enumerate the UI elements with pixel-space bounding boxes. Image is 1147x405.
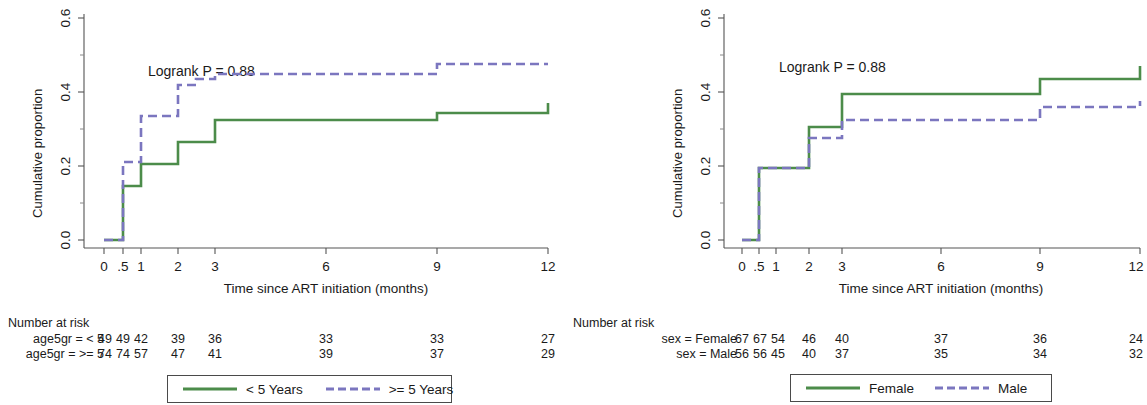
logrank-annotation-right: Logrank P = 0.88 [779, 59, 886, 75]
risk-value: 49 [114, 332, 132, 346]
risk-value: 42 [132, 332, 150, 346]
legend-label-male: Male [998, 381, 1027, 396]
y-tick-label-3: 0.6 [58, 9, 73, 28]
risk-title-right: Number at risk [573, 316, 654, 330]
x-tick-label-6: 9 [433, 259, 441, 274]
legend-item-female: Female [805, 381, 914, 396]
x-tick-label-2: 1 [137, 259, 145, 274]
risk-value: 56 [733, 347, 751, 361]
risk-value: 35 [932, 347, 950, 361]
km-curve-male [742, 101, 1140, 240]
risk-value: 37 [833, 347, 851, 361]
y-minor-ticks [720, 55, 724, 203]
x-tick-label-5: 6 [322, 259, 330, 274]
legend-item-under5: < 5 Years [182, 382, 303, 397]
x-ticks [742, 248, 1140, 254]
risk-row-label-0: age5gr = < 5 [0, 332, 104, 346]
logrank-annotation-left: Logrank P = 0.88 [148, 63, 255, 79]
risk-value: 49 [96, 332, 114, 346]
y-tick-label-2: 0.4 [58, 82, 73, 101]
x-tick-label-7: 12 [540, 259, 555, 274]
panel-left-age-group: Cumulative proportion 0.0 0.2 0.4 0.6 [0, 0, 573, 405]
x-ticks [104, 248, 548, 254]
risk-title-left: Number at risk [8, 316, 89, 330]
risk-value: 74 [114, 347, 132, 361]
risk-value: 40 [833, 332, 851, 346]
legend-item-over5: >= 5 Years [325, 382, 454, 397]
legend-label-under5: < 5 Years [246, 382, 303, 397]
risk-value: 37 [428, 347, 446, 361]
risk-value: 36 [206, 332, 224, 346]
risk-value: 47 [169, 347, 187, 361]
legend-swatch-solid [805, 382, 861, 394]
x-tick-label-4: 3 [838, 259, 846, 274]
risk-value: 67 [751, 332, 769, 346]
risk-value: 54 [769, 332, 787, 346]
x-tick-label-3: 2 [805, 259, 813, 274]
x-tick-label-7: 12 [1128, 259, 1143, 274]
x-tick-label-6: 9 [1036, 259, 1044, 274]
x-tick-label-0: 0 [738, 259, 746, 274]
risk-value: 32 [1127, 347, 1145, 361]
x-axis-label-left: Time since ART initiation (months) [224, 281, 429, 296]
x-tick-label-4: 3 [211, 259, 219, 274]
risk-value: 41 [206, 347, 224, 361]
risk-value: 67 [733, 332, 751, 346]
risk-value: 74 [96, 347, 114, 361]
risk-value: 45 [769, 347, 787, 361]
risk-value: 36 [1031, 332, 1049, 346]
legend-swatch-dashed [934, 382, 990, 394]
legend-left: < 5 Years >= 5 Years [167, 375, 452, 403]
y-tick-label-1: 0.2 [58, 157, 73, 176]
risk-row-label-0: sex = Female [574, 332, 737, 346]
y-tick-label-0: 0.0 [698, 231, 713, 250]
risk-value: 34 [1031, 347, 1049, 361]
plot-area-left: 0.0 0.2 0.4 0.6 0 .5 1 2 3 6 9 12 Time s… [0, 0, 573, 300]
legend-label-female: Female [869, 381, 914, 396]
x-tick-label-1: .5 [753, 259, 764, 274]
km-curve-female [742, 66, 1140, 240]
risk-value: 27 [539, 332, 557, 346]
x-tick-label-0: 0 [100, 259, 108, 274]
risk-value: 33 [428, 332, 446, 346]
km-curve-under5 [104, 103, 548, 240]
y-tick-label-2: 0.4 [698, 82, 713, 101]
risk-value: 57 [132, 347, 150, 361]
y-tick-label-1: 0.2 [698, 157, 713, 176]
x-tick-label-2: 1 [772, 259, 780, 274]
risk-value: 29 [539, 347, 557, 361]
legend-label-over5: >= 5 Years [389, 382, 454, 397]
y-tick-label-0: 0.0 [58, 231, 73, 250]
x-tick-label-1: .5 [117, 259, 128, 274]
plot-area-right: 0.0 0.2 0.4 0.6 0 .5 1 2 3 6 9 12 Time s… [574, 0, 1147, 300]
risk-row-label-1: sex = Male [574, 347, 737, 361]
legend-item-male: Male [934, 381, 1027, 396]
panel-right-sex: Cumulative proportion 0.0 0.2 0.4 0.6 [574, 0, 1147, 405]
x-axis-label-right: Time since ART initiation (months) [839, 281, 1044, 296]
risk-value: 24 [1127, 332, 1145, 346]
legend-swatch-dashed [325, 383, 381, 395]
risk-value: 46 [800, 332, 818, 346]
risk-value: 39 [317, 347, 335, 361]
y-tick-label-3: 0.6 [698, 9, 713, 28]
risk-value: 37 [932, 332, 950, 346]
risk-row-label-1: age5gr = >= 5 [0, 347, 104, 361]
x-tick-label-3: 2 [174, 259, 182, 274]
risk-value: 40 [800, 347, 818, 361]
km-curve-over5 [104, 64, 548, 240]
x-tick-label-5: 6 [937, 259, 945, 274]
risk-value: 56 [751, 347, 769, 361]
risk-value: 33 [317, 332, 335, 346]
legend-right: Female Male [790, 374, 1052, 402]
risk-value: 39 [169, 332, 187, 346]
legend-swatch-solid [182, 383, 238, 395]
y-minor-ticks [80, 55, 84, 203]
